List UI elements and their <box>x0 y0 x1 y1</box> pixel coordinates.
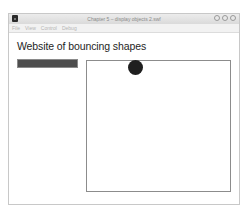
menu-debug[interactable]: Debug <box>62 24 77 32</box>
nav-bar[interactable] <box>17 59 78 68</box>
menu-bar: File View Control Debug <box>9 24 239 33</box>
menu-control[interactable]: Control <box>41 24 57 32</box>
minimize-button[interactable] <box>214 15 220 21</box>
shapes-stage <box>86 60 231 192</box>
close-button[interactable] <box>230 15 236 21</box>
swf-content: Website of bouncing shapes <box>9 33 239 204</box>
menu-view[interactable]: View <box>25 24 36 32</box>
window-title: Chapter 5 – display objects 2.swf <box>49 15 199 23</box>
bouncing-circle <box>128 60 143 75</box>
page-title: Website of bouncing shapes <box>17 40 146 52</box>
zoom-button[interactable] <box>222 15 228 21</box>
menu-file[interactable]: File <box>12 24 20 32</box>
window-controls <box>214 15 236 21</box>
flash-player-icon <box>12 15 18 22</box>
app-window: Chapter 5 – display objects 2.swf File V… <box>8 13 240 205</box>
